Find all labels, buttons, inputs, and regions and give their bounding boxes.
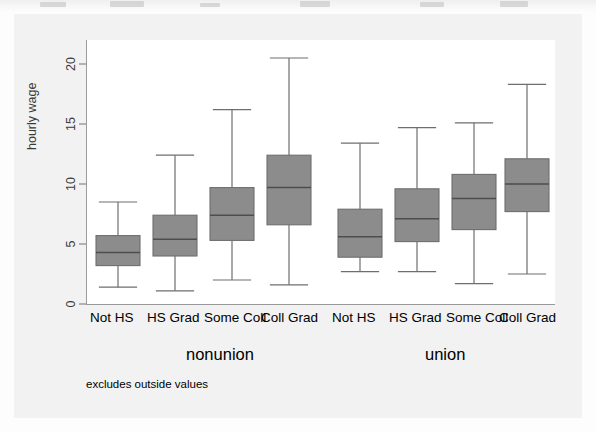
box-nonunion-coll-grad	[267, 58, 311, 285]
x-tick-label: Coll Grad	[261, 310, 318, 325]
box-body	[452, 174, 496, 229]
y-tick-label: 10	[64, 177, 78, 191]
box-union-hs-grad	[395, 128, 439, 272]
box-body	[210, 188, 254, 241]
box-union-coll-grad	[505, 84, 549, 274]
y-tick-label: 20	[64, 57, 78, 71]
x-tick-label: Coll Grad	[499, 310, 556, 325]
boxplot-chart: 05101520	[0, 0, 596, 432]
box-body	[153, 215, 197, 256]
box-series	[96, 58, 549, 291]
group-label-union: union	[425, 345, 465, 364]
box-nonunion-not-hs	[96, 202, 140, 287]
box-body	[267, 155, 311, 225]
y-tick-label: 5	[64, 240, 78, 247]
y-axis: 05101520	[64, 57, 86, 307]
box-body	[338, 209, 382, 257]
box-body	[505, 159, 549, 212]
box-body	[395, 189, 439, 242]
x-tick-label: HS Grad	[147, 310, 200, 325]
box-body	[96, 236, 140, 266]
x-tick-label: HS Grad	[389, 310, 442, 325]
box-nonunion-hs-grad	[153, 155, 197, 291]
x-tick-label: Some Coll	[204, 310, 266, 325]
box-union-not-hs	[338, 143, 382, 271]
y-tick-label: 0	[64, 300, 78, 307]
y-axis-title: hourly wage	[25, 83, 39, 150]
group-label-nonunion: nonunion	[186, 345, 254, 364]
figure-note: excludes outside values	[86, 378, 208, 390]
x-tick-label: Not HS	[90, 310, 134, 325]
box-union-some-coll	[452, 123, 496, 284]
figure-page: 05101520 hourly wage Not HSHS GradSome C…	[0, 0, 596, 432]
x-tick-label: Not HS	[332, 310, 376, 325]
box-nonunion-some-coll	[210, 110, 254, 280]
y-tick-label: 15	[64, 117, 78, 131]
